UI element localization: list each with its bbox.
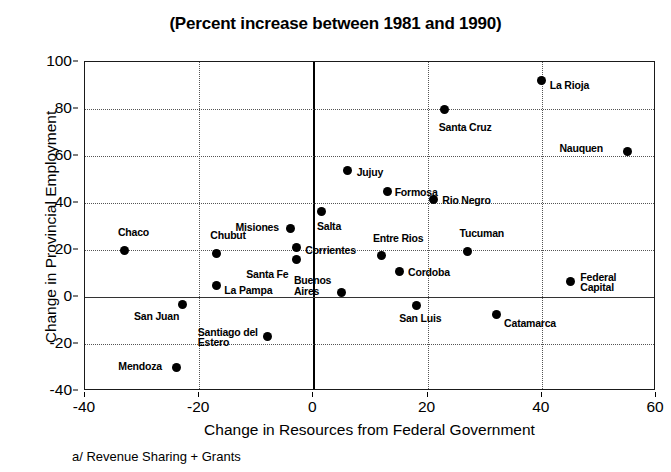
x-tick-label: 0 (308, 398, 317, 416)
gridline-vertical (542, 62, 543, 389)
gridline-vertical (428, 62, 429, 389)
data-point-label: San Luis (399, 313, 441, 324)
y-tick-mark (73, 390, 78, 391)
data-point[interactable] (566, 277, 575, 286)
data-point-label: Cordoba (408, 267, 450, 278)
data-point[interactable] (412, 301, 421, 310)
y-tick-label: 0 (63, 287, 72, 305)
data-point[interactable] (492, 310, 501, 319)
data-point-label: La Pampa (224, 285, 272, 296)
x-tick-label: 40 (532, 398, 549, 416)
data-point-label: San Juan (134, 311, 179, 322)
data-point[interactable] (286, 224, 295, 233)
scatter-chart-figure: (Percent increase between 1981 and 1990)… (0, 0, 671, 472)
data-point[interactable] (395, 267, 404, 276)
y-axis-title: Change in Provincial Employment (42, 62, 60, 392)
data-point-label: Santiago del Estero (198, 327, 258, 348)
data-point[interactable] (343, 166, 352, 175)
data-point[interactable] (263, 332, 272, 341)
data-point[interactable] (292, 255, 301, 264)
y-tick-mark (73, 343, 78, 344)
gridline-horizontal (85, 250, 654, 251)
data-point-label: Santa Fe (246, 269, 288, 280)
x-axis-zero-line (313, 62, 315, 389)
data-point-label: Entre Rios (373, 233, 424, 244)
x-tick-mark (312, 392, 313, 397)
data-point[interactable] (337, 288, 346, 297)
x-tick-label: -40 (73, 398, 95, 416)
data-point-label: Chaco (118, 227, 149, 238)
gridline-horizontal (85, 109, 654, 110)
data-point[interactable] (463, 247, 472, 256)
plot-area: La RiojaSanta CruzNauquenJujuyFormosaRio… (84, 61, 655, 390)
y-tick-mark (73, 202, 78, 203)
data-point-label: Mendoza (118, 361, 162, 372)
x-axis-title: Change in Resources from Federal Governm… (84, 421, 655, 439)
data-point-label: Buenos Aires (294, 275, 331, 296)
data-point[interactable] (178, 300, 187, 309)
data-point[interactable] (317, 207, 326, 216)
data-point-label: Chubut (210, 230, 246, 241)
x-axis-ticks: -40-200204060 (84, 392, 655, 418)
x-tick-mark (198, 392, 199, 397)
x-tick-label: 20 (418, 398, 435, 416)
chart-title: (Percent increase between 1981 and 1990) (0, 14, 671, 34)
y-tick-mark (73, 155, 78, 156)
data-point[interactable] (377, 251, 386, 260)
data-point[interactable] (537, 76, 546, 85)
data-point-label: Salta (317, 221, 341, 232)
gridline-horizontal (85, 156, 654, 157)
data-point[interactable] (172, 363, 181, 372)
data-point[interactable] (120, 246, 129, 255)
data-point[interactable] (623, 147, 632, 156)
data-point[interactable] (383, 187, 392, 196)
data-point[interactable] (212, 249, 221, 258)
y-tick-mark (73, 249, 78, 250)
data-point[interactable] (212, 281, 221, 290)
data-point-label: Jujuy (357, 167, 383, 178)
x-tick-label: -20 (187, 398, 209, 416)
gridline-horizontal (85, 344, 654, 345)
data-point-label: Formosa (395, 187, 438, 198)
data-point-label: Corrientes (305, 245, 356, 256)
data-point-label: Catamarca (504, 318, 556, 329)
data-point-label: Nauquen (559, 143, 603, 154)
y-tick-mark (73, 296, 78, 297)
gridline-horizontal (85, 203, 654, 204)
x-tick-mark (655, 392, 656, 397)
chart-footnote: a/ Revenue Sharing + Grants (72, 449, 241, 464)
data-point[interactable] (440, 105, 449, 114)
data-point-label: La Rioja (550, 80, 589, 91)
x-tick-mark (84, 392, 85, 397)
data-point-label: Rio Negro (442, 195, 490, 206)
x-tick-mark (427, 392, 428, 397)
data-point-label: Santa Cruz (439, 122, 492, 133)
y-tick-mark (73, 61, 78, 62)
data-point[interactable] (292, 243, 301, 252)
y-tick-mark (73, 108, 78, 109)
data-point-label: Federal Capital (580, 272, 616, 293)
x-tick-mark (541, 392, 542, 397)
y-axis-zero-line (85, 297, 654, 298)
x-tick-label: 60 (646, 398, 663, 416)
data-point-label: Tucuman (460, 228, 505, 239)
